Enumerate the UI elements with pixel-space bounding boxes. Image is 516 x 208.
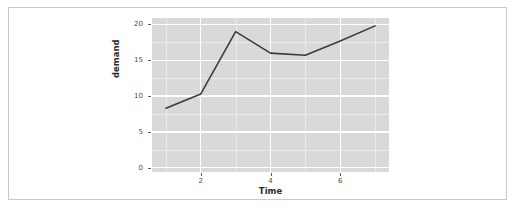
y-axis-title: demand [111,39,121,78]
y-tick-mark [148,60,151,61]
y-tick-label: 0 [121,164,143,172]
series-line [166,26,375,108]
x-tick-mark [340,173,341,176]
x-tick-label: 2 [192,177,210,185]
y-tick-mark [148,96,151,97]
figure-frame: 05101520 246 Time demand [0,0,516,208]
y-tick-label: 15 [121,56,143,64]
y-tick-mark [148,168,151,169]
x-tick-label: 4 [262,177,280,185]
x-axis-title: Time [152,186,389,196]
y-tick-label: 5 [121,128,143,136]
line-chart: 05101520 246 Time demand [0,0,516,208]
series-demand [152,18,389,172]
x-tick-mark [271,173,272,176]
x-tick-mark [201,173,202,176]
y-tick-label: 10 [121,92,143,100]
plot-panel [152,18,389,172]
y-tick-mark [148,132,151,133]
x-tick-label: 6 [331,177,349,185]
y-tick-label: 20 [121,20,143,28]
y-tick-mark [148,24,151,25]
